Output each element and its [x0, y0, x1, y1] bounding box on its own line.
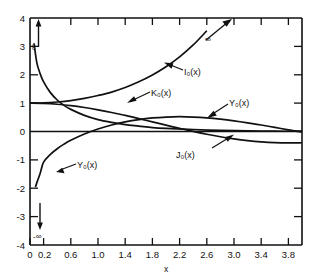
- x-tick-label: 0.6: [64, 249, 77, 260]
- x-tick-label: 3.0: [227, 249, 240, 260]
- curve-y0: [35, 117, 302, 187]
- y-tick-label: 0: [20, 126, 25, 137]
- x-tick-label: 0.2: [38, 249, 51, 260]
- x-tick-label: 0: [27, 249, 32, 260]
- curves: [30, 31, 302, 187]
- y-tick-label: -1: [17, 154, 25, 165]
- x-tick-labels: 0 0.2 0.6 1.0 1.4 1.8 2.2 2.6 3.0 3.4 3.…: [27, 249, 295, 260]
- x-tick-label: 2.2: [173, 249, 186, 260]
- x-tick-label: 2.6: [200, 249, 213, 260]
- x-tick-label: 1.4: [119, 249, 132, 260]
- neg-infinity-symbol: -∞: [33, 232, 42, 241]
- annotation-y0-lower: Y₀(x): [56, 160, 97, 173]
- annotation-infinity-neg-bottom: -∞: [33, 203, 43, 241]
- x-tick-label: 1.0: [91, 249, 104, 260]
- series-label-i0: I₀(x): [184, 67, 201, 77]
- annotation-j0: J₀(x): [176, 135, 234, 161]
- y-tick-labels: 4 3 2 1 0 -1 -2 -3 -4: [17, 13, 25, 251]
- y-tick-label: -4: [17, 240, 25, 251]
- curve-i0: [30, 31, 207, 103]
- y-tick-label: -3: [17, 211, 25, 222]
- annotation-i0: I₀(x): [164, 63, 201, 78]
- annotation-infinity-up-right: ∞: [205, 19, 232, 44]
- series-label-j0: J₀(x): [176, 150, 195, 160]
- chart-svg: 0 0.2 0.6 1.0 1.4 1.8 2.2 2.6 3.0 3.4 3.…: [0, 0, 314, 280]
- infinity-symbol: ∞: [205, 35, 211, 44]
- y-tick-label: 1: [20, 98, 25, 109]
- y-tick-label: 4: [20, 13, 25, 24]
- annotation-infinity-up-left: ∞: [29, 19, 41, 50]
- x-tick-label: 3.4: [255, 249, 268, 260]
- series-label-k0: K₀(x): [151, 88, 171, 98]
- series-label-y0: Y₀(x): [77, 160, 97, 170]
- y-tick-label: 3: [20, 41, 25, 52]
- chart-figure: 0 0.2 0.6 1.0 1.4 1.8 2.2 2.6 3.0 3.4 3.…: [0, 0, 314, 280]
- x-tick-label: 1.8: [146, 249, 159, 260]
- x-axis-title: x: [164, 264, 169, 274]
- infinity-symbol: ∞: [29, 44, 38, 50]
- series-label-y0: Y₀(x): [229, 98, 249, 108]
- y-tick-label: -2: [17, 183, 25, 194]
- x-tick-label: 3.8: [282, 249, 295, 260]
- annotation-k0: K₀(x): [127, 88, 171, 104]
- y-tick-label: 2: [20, 69, 25, 80]
- annotation-y0-upper: Y₀(x): [207, 98, 249, 118]
